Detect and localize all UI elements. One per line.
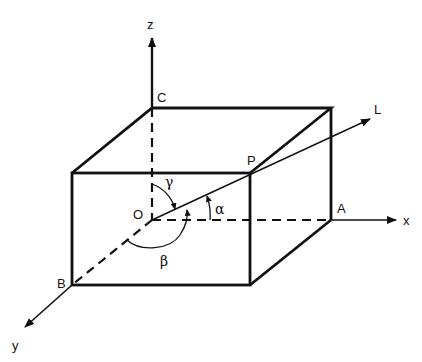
origin-label: O bbox=[133, 207, 143, 222]
x-axis-label: x bbox=[403, 213, 410, 228]
right-bottom-edge bbox=[250, 220, 331, 285]
point-p-label: P bbox=[247, 153, 256, 168]
direction-cosine-diagram: z x y C P A B O L γ α β bbox=[0, 0, 422, 362]
y-axis-label: y bbox=[12, 338, 19, 353]
alpha-label: α bbox=[215, 201, 225, 217]
alpha-arc bbox=[207, 196, 210, 220]
dashed-edge-ob bbox=[72, 220, 152, 285]
point-c-label: C bbox=[157, 90, 166, 105]
point-b-label: B bbox=[57, 276, 66, 291]
gamma-label: γ bbox=[165, 174, 173, 190]
line-l-label: L bbox=[374, 102, 381, 117]
top-face-back-edges bbox=[72, 108, 331, 173]
y-axis bbox=[25, 285, 72, 327]
point-a-label: A bbox=[337, 201, 346, 216]
z-axis-label: z bbox=[147, 17, 154, 32]
beta-label: β bbox=[160, 253, 168, 269]
